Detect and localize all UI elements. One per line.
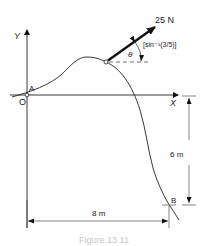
trajectory-diagram: Y X O A B 25 N θ [sin⁻¹(3/5)] 6 m 8 m Fi… [0,0,208,246]
force-magnitude-label: 25 N [155,15,174,25]
y-axis-label: Y [14,31,21,41]
dimension-6m-label: 6 m [170,150,184,159]
angle-symbol: θ [128,50,133,59]
point-a-label: A [29,84,35,93]
trajectory-curve [12,57,179,220]
x-axis-label: X [169,98,177,108]
force-application-point [104,60,108,64]
angle-value-label: [sin⁻¹(3/5)] [143,41,177,49]
point-b-label: B [171,196,176,205]
origin-label: O [19,97,26,107]
angle-arc [135,42,141,61]
dimension-8m-label: 8 m [92,209,106,218]
figure-caption: Figure 13.11 [79,235,129,245]
